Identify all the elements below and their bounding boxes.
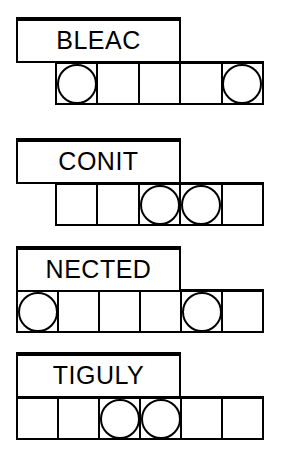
grid-cell[interactable] <box>59 399 100 438</box>
grid-cell[interactable] <box>18 399 59 438</box>
circle-marker-icon <box>141 399 181 439</box>
grid-cell[interactable] <box>100 399 141 438</box>
grid-cell[interactable] <box>140 64 181 103</box>
word-label-3: NECTED <box>46 257 152 282</box>
answer-grid-4 <box>16 396 264 440</box>
circle-marker-icon <box>18 292 58 332</box>
grid-cell[interactable] <box>223 399 262 438</box>
word-box-3[interactable]: NECTED <box>16 246 181 292</box>
grid-cell[interactable] <box>141 399 182 438</box>
grid-cell[interactable] <box>181 64 222 103</box>
grid-cell[interactable] <box>223 185 262 224</box>
word-label-4: TIGULY <box>53 363 144 388</box>
worksheet-sheet: BLEAC CONIT <box>0 0 283 452</box>
grid-cell[interactable] <box>98 64 139 103</box>
word-box-1[interactable]: BLEAC <box>16 17 181 63</box>
circle-marker-icon <box>100 399 140 439</box>
answer-grid-2 <box>55 182 264 226</box>
answer-grid-3 <box>16 289 264 333</box>
grid-cell[interactable] <box>57 64 98 103</box>
grid-cell[interactable] <box>223 64 262 103</box>
grid-cell[interactable] <box>98 185 139 224</box>
circle-marker-icon <box>181 185 221 225</box>
word-label-1: BLEAC <box>56 28 140 53</box>
grid-cell[interactable] <box>141 292 182 331</box>
grid-cell[interactable] <box>182 292 223 331</box>
answer-grid-1 <box>55 61 264 105</box>
grid-cell[interactable] <box>100 292 141 331</box>
grid-cell[interactable] <box>223 292 262 331</box>
circle-marker-icon <box>182 292 222 332</box>
grid-cell[interactable] <box>18 292 59 331</box>
circle-marker-icon <box>57 64 97 104</box>
word-box-2[interactable]: CONIT <box>16 138 181 184</box>
grid-cell[interactable] <box>182 399 223 438</box>
grid-cell[interactable] <box>181 185 222 224</box>
circle-marker-icon <box>222 64 262 104</box>
word-label-2: CONIT <box>58 149 138 174</box>
word-box-4[interactable]: TIGULY <box>16 352 181 398</box>
grid-cell[interactable] <box>140 185 181 224</box>
grid-cell[interactable] <box>57 185 98 224</box>
circle-marker-icon <box>140 185 180 225</box>
grid-cell[interactable] <box>59 292 100 331</box>
